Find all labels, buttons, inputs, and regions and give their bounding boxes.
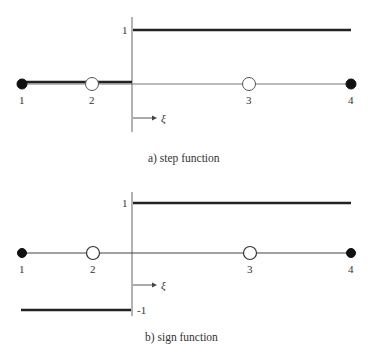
node-filled-icon bbox=[346, 79, 356, 89]
node-label: 3 bbox=[247, 263, 253, 275]
node-open-icon bbox=[86, 78, 99, 91]
axis-value-minus-one: -1 bbox=[137, 304, 146, 316]
caption-step-function: a) step function bbox=[148, 152, 220, 165]
diagram-canvas: 1 1 2 3 4 ξ a) step function 1 -1 bbox=[0, 0, 374, 353]
panel-step-function: 1 1 2 3 4 ξ a) step function bbox=[17, 17, 356, 165]
axis-value-one: 1 bbox=[122, 197, 128, 209]
node-label: 2 bbox=[89, 94, 95, 106]
node-label: 1 bbox=[19, 263, 25, 275]
node-filled-icon bbox=[347, 249, 356, 258]
caption-sign-function: b) sign function bbox=[145, 331, 218, 344]
panel-sign-function: 1 -1 1 2 3 4 ξ b) sign function bbox=[18, 192, 356, 344]
node-label: 3 bbox=[246, 94, 252, 106]
axis-value-one: 1 bbox=[122, 24, 128, 36]
xi-label: ξ bbox=[161, 279, 166, 292]
node-label: 1 bbox=[19, 94, 25, 106]
arrow-right-icon bbox=[152, 283, 157, 288]
node-open-icon bbox=[244, 247, 257, 260]
arrow-right-icon bbox=[152, 116, 157, 121]
node-label: 4 bbox=[348, 263, 354, 275]
node-open-icon bbox=[243, 78, 256, 91]
xi-label: ξ bbox=[161, 112, 166, 125]
node-label: 2 bbox=[90, 263, 96, 275]
node-filled-icon bbox=[18, 249, 27, 258]
node-label: 4 bbox=[348, 94, 354, 106]
node-filled-icon bbox=[17, 79, 27, 89]
node-open-icon bbox=[87, 247, 100, 260]
